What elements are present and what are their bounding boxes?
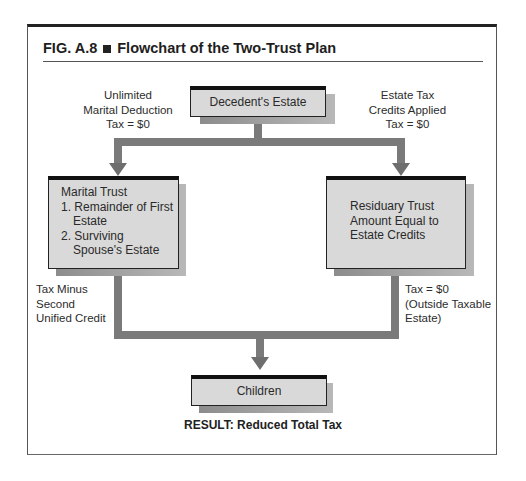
connector-right-down <box>397 138 405 165</box>
annotation-estate-tax-credits: Estate Tax Credits Applied Tax = $0 <box>360 88 455 132</box>
marital-trust-box: Marital Trust 1. Remainder of First Esta… <box>48 176 179 269</box>
connector-residuary-down <box>391 268 399 338</box>
annotation-line: Tax = $0 <box>405 282 500 297</box>
annotation-line: Unified Credit <box>36 311 116 326</box>
item-number: 1. <box>61 200 71 214</box>
annotation-line: Estate Tax <box>360 88 455 103</box>
arrow-to-children-icon <box>251 357 269 370</box>
annotation-line: Second <box>36 297 116 312</box>
marital-item-2: 2. Surviving <box>61 229 178 244</box>
decedent-estate-label: Decedent's Estate <box>209 95 306 109</box>
annotation-line: Marital Deduction <box>78 103 178 118</box>
connector-to-children <box>256 331 264 358</box>
annotation-line: Tax = $0 <box>360 117 455 132</box>
residuary-line: Estate Credits <box>350 228 465 243</box>
figure-title-text: Flowchart of the Two-Trust Plan <box>117 40 336 56</box>
item-number: 2. <box>61 229 71 243</box>
marital-trust-title: Marital Trust <box>61 185 178 200</box>
decedent-estate-box: Decedent's Estate <box>190 86 326 117</box>
marital-item-1-cont: Estate <box>61 214 178 229</box>
residuary-line: Amount Equal to <box>350 214 465 229</box>
item-text: Remainder of First <box>74 200 173 214</box>
arrow-to-residuary-icon <box>392 163 410 176</box>
annotation-line: Credits Applied <box>360 103 455 118</box>
residuary-line: Residuary Trust <box>350 199 465 214</box>
annotation-line: Tax = $0 <box>78 117 178 132</box>
annotation-line: Tax Minus <box>36 282 116 297</box>
children-label: Children <box>237 384 282 398</box>
item-text: Surviving <box>74 229 123 243</box>
black-square-icon <box>103 45 111 53</box>
marital-item-1: 1. Remainder of First <box>61 200 178 215</box>
annotation-tax-minus-credit: Tax Minus Second Unified Credit <box>36 282 116 326</box>
arrow-to-marital-icon <box>109 163 127 176</box>
connector-left-down <box>114 138 122 165</box>
annotation-line: Estate) <box>405 311 500 326</box>
connector-top-horizontal <box>114 138 405 146</box>
annotation-unlimited-marital: Unlimited Marital Deduction Tax = $0 <box>78 88 178 132</box>
children-box: Children <box>191 375 327 406</box>
marital-item-2-cont: Spouse's Estate <box>61 243 178 258</box>
annotation-line: (Outside Taxable <box>405 297 500 312</box>
title-rule <box>43 61 483 62</box>
figure-number: FIG. A.8 <box>43 40 97 56</box>
annotation-line: Unlimited <box>78 88 178 103</box>
annotation-outside-taxable: Tax = $0 (Outside Taxable Estate) <box>405 282 500 326</box>
figure-title: FIG. A.8Flowchart of the Two-Trust Plan <box>43 40 336 56</box>
residuary-trust-box: Residuary Trust Amount Equal to Estate C… <box>326 176 466 269</box>
result-caption: RESULT: Reduced Total Tax <box>0 418 526 432</box>
